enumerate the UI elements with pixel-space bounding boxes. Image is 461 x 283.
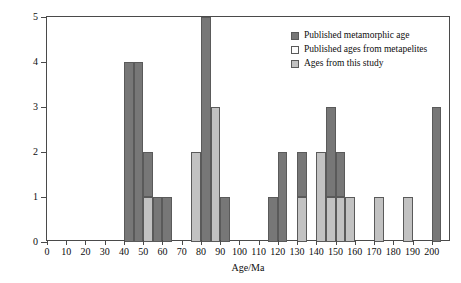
bar-segment bbox=[153, 197, 163, 242]
x-axis-tick-label: 20 bbox=[80, 247, 90, 257]
x-axis-tick bbox=[374, 240, 375, 245]
x-axis-tick-label: 140 bbox=[309, 247, 324, 257]
y-axis-tick-label: 1 bbox=[33, 192, 38, 202]
x-axis-tick-label: 170 bbox=[367, 247, 382, 257]
x-axis-tick-label: 190 bbox=[405, 247, 420, 257]
x-axis-tick bbox=[278, 240, 279, 245]
x-axis-tick bbox=[297, 240, 298, 245]
x-axis-tick-label: 70 bbox=[177, 247, 187, 257]
bar-segment bbox=[326, 197, 336, 242]
x-axis-tick-label: 200 bbox=[424, 247, 439, 257]
legend-item: Ages from this study bbox=[291, 59, 427, 69]
bar-segment bbox=[297, 197, 307, 242]
bar-segment bbox=[162, 197, 172, 242]
x-axis-tick-label: 100 bbox=[232, 247, 247, 257]
x-axis-tick bbox=[124, 240, 125, 245]
x-axis-tick bbox=[66, 240, 67, 245]
bar-segment bbox=[336, 152, 346, 197]
x-axis-tick-label: 60 bbox=[157, 247, 167, 257]
x-axis-tick bbox=[201, 240, 202, 245]
x-axis-tick bbox=[259, 240, 260, 245]
x-axis-tick-label: 90 bbox=[215, 247, 225, 257]
bar-segment bbox=[316, 152, 326, 242]
x-axis-tick bbox=[220, 240, 221, 245]
x-axis-tick bbox=[393, 240, 394, 245]
y-axis-tick bbox=[41, 197, 47, 198]
legend-item-label: Published ages from metapelites bbox=[304, 45, 427, 55]
y-axis-tick bbox=[41, 107, 47, 108]
y-axis-tick-label: 3 bbox=[33, 102, 38, 112]
legend-swatch-icon bbox=[291, 60, 299, 68]
legend-item: Published ages from metapelites bbox=[291, 45, 427, 55]
x-axis-tick bbox=[143, 240, 144, 245]
y-axis-tick-label: 4 bbox=[33, 57, 38, 67]
legend-item: Published metamorphic age bbox=[291, 31, 427, 41]
plot-area: 012345 010203040506070809010011012013014… bbox=[46, 16, 450, 241]
x-axis-tick-label: 130 bbox=[290, 247, 305, 257]
legend-item-label: Ages from this study bbox=[304, 59, 383, 69]
x-axis-tick-label: 150 bbox=[328, 247, 343, 257]
x-axis-tick bbox=[413, 240, 414, 245]
bar-segment bbox=[345, 197, 355, 242]
x-axis-title: Age/Ma bbox=[47, 262, 449, 273]
bar-segment bbox=[268, 197, 278, 242]
x-axis-tick-label: 180 bbox=[386, 247, 401, 257]
x-axis-tick bbox=[336, 240, 337, 245]
x-axis-tick-label: 160 bbox=[347, 247, 362, 257]
x-axis-tick-label: 30 bbox=[100, 247, 110, 257]
histogram-chart: Frequency of reported metamorphic age 01… bbox=[0, 0, 461, 283]
x-axis-tick bbox=[355, 240, 356, 245]
legend-item-label: Published metamorphic age bbox=[304, 31, 410, 41]
bar-segment bbox=[220, 197, 230, 242]
bar-segment bbox=[124, 62, 134, 242]
x-axis-tick bbox=[85, 240, 86, 245]
x-axis-tick-label: 0 bbox=[45, 247, 50, 257]
x-axis-tick bbox=[239, 240, 240, 245]
x-axis-tick bbox=[105, 240, 106, 245]
bar-segment bbox=[134, 62, 144, 242]
x-axis-tick-label: 10 bbox=[61, 247, 71, 257]
bar-segment bbox=[143, 152, 153, 197]
bar-segment bbox=[432, 107, 442, 242]
legend-swatch-icon bbox=[291, 46, 299, 54]
y-axis-tick-label: 0 bbox=[33, 237, 38, 247]
bar-segment bbox=[211, 107, 221, 242]
bar-segment bbox=[336, 197, 346, 242]
x-axis-tick-label: 80 bbox=[196, 247, 206, 257]
bar-segment bbox=[278, 152, 288, 242]
bar-segment bbox=[143, 197, 153, 242]
x-axis-tick-label: 40 bbox=[119, 247, 129, 257]
legend-swatch-icon bbox=[291, 32, 299, 40]
x-axis-tick-label: 120 bbox=[270, 247, 285, 257]
y-axis-tick bbox=[41, 62, 47, 63]
x-axis-tick bbox=[47, 240, 48, 245]
y-axis-tick bbox=[41, 152, 47, 153]
x-axis-tick bbox=[432, 240, 433, 245]
x-axis-tick-label: 50 bbox=[138, 247, 148, 257]
bar-segment bbox=[201, 17, 211, 242]
bar-segment bbox=[403, 197, 413, 242]
y-axis-tick bbox=[41, 17, 47, 18]
bar-segment bbox=[374, 197, 384, 242]
bar-segment bbox=[297, 152, 307, 197]
legend: Published metamorphic agePublished ages … bbox=[291, 31, 427, 73]
x-axis-tick bbox=[162, 240, 163, 245]
bar-segment bbox=[191, 152, 201, 242]
x-axis-tick bbox=[182, 240, 183, 245]
x-axis-tick-label: 110 bbox=[251, 247, 266, 257]
y-axis-tick-label: 2 bbox=[33, 147, 38, 157]
bar-segment bbox=[326, 107, 336, 197]
x-axis-tick bbox=[316, 240, 317, 245]
y-axis-tick-label: 5 bbox=[33, 12, 38, 22]
